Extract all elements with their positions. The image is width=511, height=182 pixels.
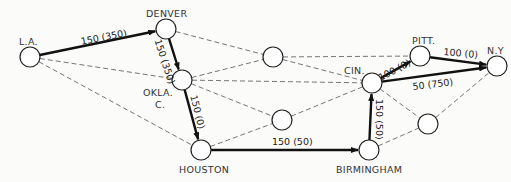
dashed-edge-houston-mid_bot	[210, 123, 272, 146]
node-label-houston: HOUSTON	[179, 165, 229, 175]
edge-layer	[0, 0, 511, 182]
node-label-birmingham: BIRMINGHAM	[336, 165, 402, 175]
node-denver	[156, 19, 176, 39]
dashed-edge-la-okla	[40, 58, 172, 78]
node-label-pitt: PITT.	[412, 36, 435, 46]
node-label-la: L.A.	[19, 37, 38, 47]
node-la	[20, 47, 40, 67]
edge-label-houston-birmingham: 150 (50)	[272, 137, 313, 147]
node-label-ny: N.Y	[487, 46, 504, 56]
edge-label-birmingham-cin: 150 (50)	[375, 99, 385, 140]
node-houston	[191, 140, 211, 160]
node-birmingham	[359, 140, 379, 160]
network-flow-diagram: L.A. DENVER OKLA. C. HOUSTON BIRMINGHAM …	[0, 0, 511, 182]
node-mid_bot	[272, 110, 292, 130]
node-right_bot	[418, 114, 438, 134]
node-label-okla-2: C.	[155, 100, 165, 110]
dashed-edge-denver-mid_top	[176, 32, 264, 55]
node-label-cin: CIN.	[344, 66, 365, 76]
dashed-edge-cin-right_bot	[380, 89, 420, 118]
node-pitt	[410, 46, 430, 66]
node-ny	[487, 56, 507, 76]
node-mid_top	[263, 47, 283, 67]
dashed-edge-mid_top-pitt	[283, 56, 410, 57]
dashed-edge-okla-mid_top	[192, 59, 264, 77]
flow-edge-birmingham-cin	[369, 94, 371, 140]
dashed-edge-okla-cin	[192, 80, 362, 83]
dashed-edge-mid_bot-cin	[291, 87, 363, 116]
node-label-denver: DENVER	[146, 9, 187, 19]
node-label-okla: OKLA.	[143, 88, 173, 98]
